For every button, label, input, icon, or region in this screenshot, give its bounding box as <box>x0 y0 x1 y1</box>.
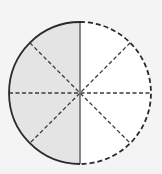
fraction-circle-diagram <box>0 0 162 174</box>
fraction-circle-svg <box>0 0 162 174</box>
